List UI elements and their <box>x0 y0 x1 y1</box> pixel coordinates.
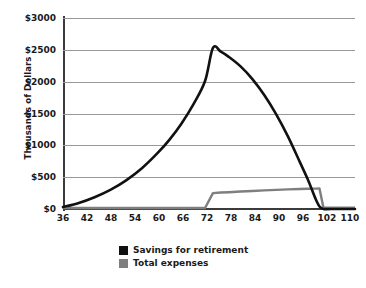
legend-item-expenses: Total expenses <box>119 258 247 269</box>
legend-swatch-expenses-icon <box>119 259 128 268</box>
y-tick-2000: $2000 <box>0 77 56 87</box>
y-tick-3000: $3000 <box>0 13 56 23</box>
y-tick-2500: $2500 <box>0 45 56 55</box>
savings-for-retirement-line <box>63 46 355 209</box>
legend-item-savings: Savings for retirement <box>119 245 247 256</box>
legend-label-savings: Savings for retirement <box>133 245 248 256</box>
plot-area <box>63 18 355 209</box>
y-tick-1000: $1000 <box>0 140 56 150</box>
legend-swatch-savings-icon <box>119 246 128 255</box>
retirement-savings-chart: Thousands of Dollars $3000 $2500 $2000 $… <box>0 0 366 288</box>
y-tick-500: $500 <box>0 172 56 182</box>
y-tick-1500: $1500 <box>0 109 56 119</box>
legend-label-expenses: Total expenses <box>133 258 208 269</box>
chart-legend: Savings for retirement Total expenses <box>0 245 366 269</box>
x-tick-110: 110 <box>335 213 365 223</box>
series-paths <box>63 18 355 209</box>
